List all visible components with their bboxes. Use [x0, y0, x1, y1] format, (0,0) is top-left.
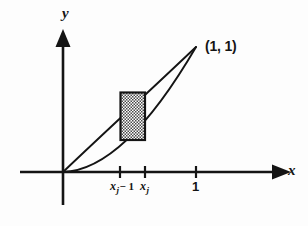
- x-axis-label: x: [288, 163, 296, 178]
- y-axis-arrowhead: [56, 29, 71, 47]
- y-axis: [56, 29, 71, 205]
- tick-subscript-xj: j: [146, 185, 149, 195]
- tick-operator-xjm1: − 1: [119, 180, 134, 192]
- approximating-rectangle: [121, 93, 146, 141]
- figure-graphic: [0, 0, 308, 226]
- tick-label-one: 1: [192, 180, 199, 193]
- corner-point-label: (1, 1): [205, 39, 236, 53]
- y-axis-label: y: [62, 6, 69, 21]
- x-axis: [20, 165, 291, 180]
- tick-label-x-j: xj: [140, 180, 149, 195]
- tick-label-x-j-minus-1: xj− 1: [110, 180, 134, 195]
- figure-container: y x (1, 1) xj− 1 xj 1: [0, 0, 308, 226]
